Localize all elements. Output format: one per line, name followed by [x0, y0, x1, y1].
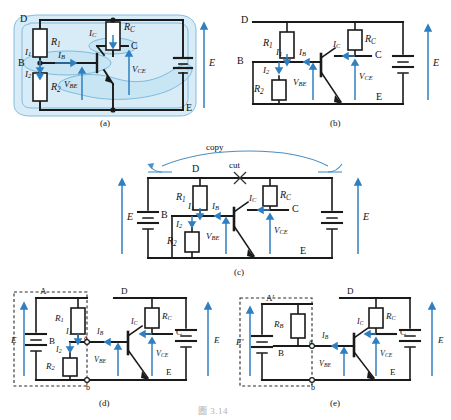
panel-e-node-e: E: [390, 368, 396, 377]
panel-b-vbe-label: VBE: [293, 78, 306, 88]
panel-d-node-c: C: [176, 328, 182, 337]
terminal-b: [310, 378, 315, 383]
panel-b-ic-label: IC: [333, 40, 340, 50]
panel-d-terminal-a: a: [84, 334, 88, 342]
panel-e-ic-label: IC: [357, 318, 364, 327]
panel-c-i2-label: I2: [176, 220, 182, 230]
figure-caption: 圖 3.14: [198, 404, 228, 417]
resistor-rc: [348, 30, 362, 50]
resistor-r1: [33, 29, 47, 57]
panel-c-r2-label: R2: [167, 236, 177, 248]
panel-a-vbe-label: VBE: [64, 80, 77, 90]
dot-bottom: [110, 107, 115, 112]
resistor-r2: [63, 358, 77, 376]
resistor-r2: [185, 232, 199, 252]
resistor-rc: [145, 308, 159, 328]
panel-b-circuit: [225, 0, 451, 130]
panel-d-e-right-label: E: [214, 336, 220, 345]
panel-c-r1-label: R1: [176, 192, 186, 204]
emitter-lead: [234, 226, 254, 256]
panel-d-node-d: D: [121, 287, 128, 296]
panel-c-rc-label: RC: [280, 190, 291, 202]
panel-a-node-d: D: [20, 14, 27, 24]
panel-a-e-label: E: [209, 58, 215, 68]
panel-d-circuit: [0, 282, 226, 420]
panel-b-node-e: E: [376, 92, 382, 102]
panel-d-ib-label: IB: [97, 328, 103, 337]
panel-e-rc-label: RC: [386, 312, 396, 322]
panel-d-node-a: A: [40, 287, 47, 296]
panel-e: A′ B D C E a b RB RC IB IC VBE VCE E′ E …: [228, 282, 451, 420]
panel-a-caption: (a): [100, 118, 110, 128]
copy-annotation: [148, 151, 342, 172]
panel-a-r2-label: R2: [51, 82, 61, 94]
panel-d-node-b: B: [49, 337, 55, 346]
panel-e-e-right-label: E: [438, 336, 444, 345]
panel-b-r1-label: R1: [263, 38, 273, 50]
collector-lead: [234, 202, 248, 212]
resistors: [272, 30, 362, 100]
current-arrows: [247, 303, 435, 376]
panel-c-i1-label: I1: [188, 202, 194, 212]
panel-d-e-left-label: E: [11, 336, 17, 345]
panel-e-vbe-label: VBE: [319, 360, 331, 369]
panel-e-node-a: A′: [266, 294, 274, 303]
resistor-r2: [272, 80, 286, 100]
panel-a: D B C E R1 R2 RC I1 I2 IB IC VBE VCE E (…: [0, 0, 222, 130]
panel-c-ic-label: IC: [249, 194, 256, 204]
panel-a-i1-label: I1: [25, 48, 31, 58]
panel-b-rc-label: RC: [365, 34, 376, 46]
panel-a-r1-label: R1: [51, 37, 61, 49]
panel-e-node-d: D: [347, 287, 354, 296]
resistors: [185, 186, 277, 252]
panel-b-r2-label: R2: [254, 84, 264, 96]
panel-a-node-e: E: [186, 103, 192, 113]
panel-c: copy cut D B C E R1 R2 RC I1 I2 IB IC VB…: [110, 140, 372, 280]
panel-d-i1-label: I1: [66, 328, 72, 337]
current-arrows: [119, 179, 361, 254]
resistor-r1: [71, 308, 85, 334]
panel-a-ic-label: IC: [89, 29, 96, 39]
panel-b-i1-label: I1: [276, 48, 282, 58]
panel-d-rc-label: RC: [162, 312, 172, 322]
panel-b: D B C E R1 R2 RC I1 I2 IB IC VBE VCE E (…: [225, 0, 451, 130]
emitter-arrow: [141, 371, 149, 380]
panel-d-ic-label: IC: [131, 318, 138, 327]
panel-c-node-c: C: [292, 204, 299, 214]
panel-b-node-b: B: [237, 56, 244, 66]
panel-c-vce-label: VCE: [274, 226, 288, 236]
panel-a-vce-label: VCE: [132, 65, 146, 75]
panel-a-node-b: B: [18, 58, 25, 68]
panel-a-node-c: C: [131, 41, 138, 51]
panel-a-ib-label: IB: [58, 51, 65, 61]
copy-arc-right-tail: [328, 164, 342, 172]
panel-c-e-right-label: E: [363, 212, 369, 222]
panel-b-e-label: E: [433, 58, 439, 68]
panel-c-e-left-label: E: [127, 212, 133, 222]
panel-c-node-d: D: [192, 164, 199, 174]
panel-b-vce-label: VCE: [359, 72, 373, 82]
panel-c-node-e: E: [300, 246, 306, 256]
panel-d-vbe-label: VBE: [94, 356, 106, 365]
panel-d: A B D C E a b R1 R2 RC I1 I2 IB IC VBE V…: [0, 282, 226, 420]
panel-d-node-e: E: [166, 368, 172, 377]
emitter-lead: [354, 352, 374, 378]
resistor-rc: [369, 308, 383, 328]
emitter-arrow: [367, 371, 375, 380]
panel-e-terminal-b: b: [311, 384, 315, 392]
panel-d-terminal-b: b: [86, 384, 90, 392]
terminal-b: [85, 378, 90, 383]
emitter-lead: [321, 72, 341, 102]
panel-c-copy-label: copy: [206, 143, 224, 152]
panel-b-i2-label: I2: [263, 66, 269, 76]
panel-a-rc-label: RC: [124, 22, 135, 34]
resistor-r1: [193, 186, 207, 210]
dot-top: [110, 17, 115, 22]
panel-d-i2-label: I2: [56, 346, 62, 355]
panel-e-caption: (e): [330, 398, 340, 408]
resistor-rb: [291, 314, 305, 338]
panel-b-node-d: D: [241, 15, 248, 25]
panel-d-caption: (d): [99, 398, 110, 408]
panel-e-node-b: B: [278, 349, 284, 358]
panel-d-r1-label: R1: [55, 314, 64, 324]
